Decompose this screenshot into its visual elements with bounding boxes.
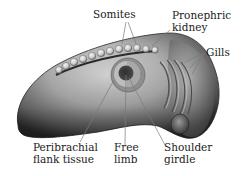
label-somites: Somites [93, 8, 136, 20]
head-bump [171, 114, 189, 134]
label-pronephric-kidney: Pronephric kidney [172, 9, 231, 33]
limb-field [111, 58, 145, 92]
label-free-limb: Free limb [114, 141, 139, 165]
label-gills: Gills [206, 46, 230, 58]
embryo-diagram: Somites Pronephric kidney Gills Peribrac… [0, 0, 242, 176]
label-shoulder-girdle: Shoulder girdle [164, 141, 212, 165]
label-peribrachial-flank-tissue: Peribrachial flank tissue [33, 141, 98, 165]
